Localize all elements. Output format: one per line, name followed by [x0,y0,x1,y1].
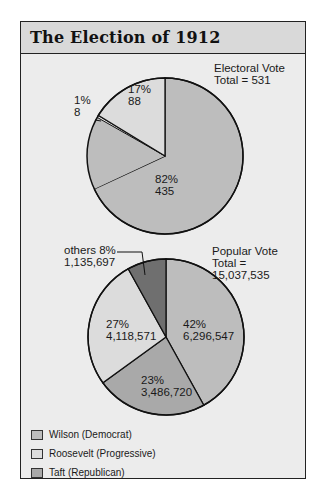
chart-panel: The Election of 1912 Electoral Vote Tota… [20,21,306,479]
legend-label: Roosevelt (Progressive) [49,448,156,459]
legend-label: Wilson (Democrat) [49,429,132,440]
legend: Wilson (Democrat) Roosevelt (Progressive… [31,425,156,482]
wilson-swatch [31,430,43,440]
electoral-pie: Electoral Vote Total = 531 17% 88 1% 8 8… [74,62,288,234]
popular-pie: others 8% 1,135,697 Popular Vote Total =… [64,244,281,415]
electoral-heading: Electoral Vote Total = 531 [214,62,288,86]
legend-item-taft: Taft (Republican) [31,463,156,482]
electoral-taft-label: 1% 8 [74,94,94,118]
popular-others-label: others 8% 1,135,697 [64,244,119,268]
roosevelt-swatch [31,449,43,459]
pie-charts: Electoral Vote Total = 531 17% 88 1% 8 8… [21,22,307,480]
legend-item-roosevelt: Roosevelt (Progressive) [31,444,156,463]
taft-swatch [31,468,43,478]
popular-heading: Popular Vote Total = 15,037,535 [212,245,281,281]
legend-label: Taft (Republican) [49,467,125,478]
legend-item-wilson: Wilson (Democrat) [31,425,156,444]
